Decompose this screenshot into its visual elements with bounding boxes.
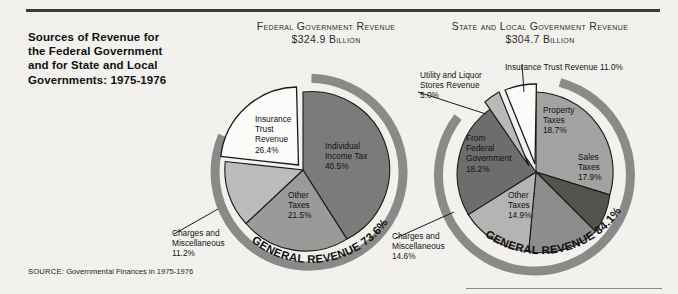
state-chart-subtitle: $304.7 Billion: [406, 33, 674, 46]
state-label-from-federal-government: From Federal Government 18.2%: [466, 133, 534, 174]
state-label-property-taxes: Property Taxes 18.7%: [543, 105, 599, 136]
state-label-sales-taxes: Sales Taxes 17.9%: [578, 152, 624, 183]
federal-label-other-taxes: Other Taxes 21.5%: [288, 190, 332, 221]
source-line: SOURCE: Governmental Finances in 1975-19…: [28, 267, 193, 276]
source-text: Governmental Finances in 1975-1976: [66, 267, 193, 276]
federal-chart-subtitle: $324.9 Billion: [216, 33, 436, 46]
federal-callout-charges-miscellaneous: Charges and Miscellaneous 11.2%: [172, 228, 262, 259]
page-title: Sources of Revenue for the Federal Gover…: [28, 30, 168, 87]
source-label: SOURCE:: [28, 267, 64, 276]
federal-chart-title: Federal Government Revenue $324.9 Billio…: [216, 20, 436, 46]
state-callout-insurance-trust-revenue: Insurance Trust Revenue 11.0%: [505, 62, 665, 72]
state-callout-utility-liquor-stores: Utility and Liquor Stores Revenue 5.0%: [420, 70, 506, 101]
state-callout-charges-miscellaneous: Charges and Miscellaneous 14.6%: [392, 231, 488, 262]
state-label-other-taxes: Other Taxes 14.9%: [508, 190, 552, 221]
federal-label-insurance-trust: Insurance Trust Revenue 26.4%: [255, 114, 315, 155]
bottom-divider-rule: [466, 288, 662, 289]
state-chart-title-main: State and Local Government Revenue: [452, 20, 628, 32]
top-divider-rule: [26, 9, 660, 12]
federal-chart-title-main: Federal Government Revenue: [257, 20, 396, 32]
federal-label-individual-income-tax: Individual Income Tax 40.5%: [325, 141, 387, 172]
state-chart-title: State and Local Government Revenue $304.…: [406, 20, 674, 46]
